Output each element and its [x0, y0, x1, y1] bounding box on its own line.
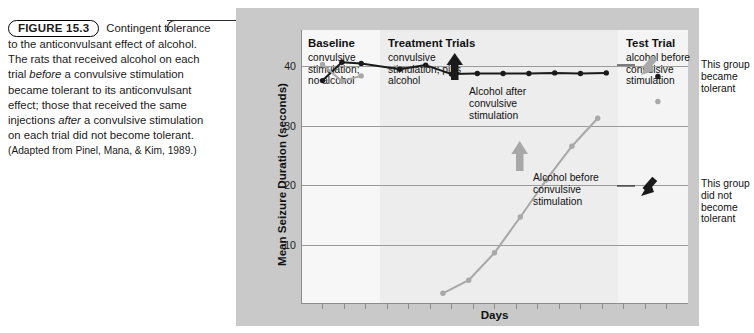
y-axis-ticks: 40 30 20 10 — [266, 30, 296, 304]
figure-panel: Baseline convulsive stimulation; no alco… — [236, 8, 699, 326]
plot-area: Alcohol after convulsive stimulation Alc… — [301, 30, 688, 304]
y-tick-label: 10 — [266, 239, 296, 251]
y-tick-label: 30 — [266, 120, 296, 132]
figure-number-badge: FIGURE 15.3 — [8, 20, 99, 37]
caption-emphasis-after: after — [58, 114, 81, 126]
annotation-alcohol-after: Alcohol after convulsive stimulation — [469, 86, 569, 121]
caption-emphasis-before: before — [29, 68, 61, 80]
y-tick-label: 20 — [266, 179, 296, 191]
y-tick-label: 40 — [266, 60, 296, 72]
figure-caption: FIGURE 15.3 Contingent tolerance to the … — [8, 20, 216, 159]
annotation-not-tolerant: This group did not become tolerant — [701, 178, 754, 225]
annotation-became-tolerant: This group became tolerant — [701, 59, 754, 94]
annotation-alcohol-before: Alcohol before convulsive stimulation — [533, 172, 633, 207]
x-axis-title: Days — [301, 308, 688, 321]
caption-source: (Adapted from Pinel, Mana, & Kim, 1989.) — [8, 145, 197, 156]
annotation-text-layer: Alcohol after convulsive stimulation Alc… — [301, 30, 688, 304]
